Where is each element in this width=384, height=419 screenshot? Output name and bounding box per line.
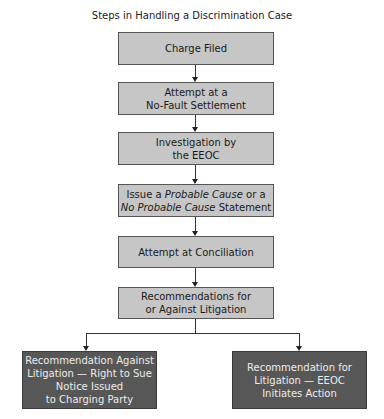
step-conciliation: Attempt at Conciliation bbox=[118, 236, 274, 268]
outcome-label: Initiates Action bbox=[247, 387, 352, 400]
step-charge-filed: Charge Filed bbox=[118, 32, 274, 65]
step-recommendations: Recommendations for or Against Litigatio… bbox=[118, 287, 274, 319]
outcome-label: Notice Issued bbox=[25, 380, 154, 393]
connector bbox=[195, 217, 196, 231]
step-label: No-Fault Settlement bbox=[146, 99, 246, 112]
outcome-against-litigation: Recommendation Against Litigation — Righ… bbox=[22, 351, 157, 409]
step-label: the EEOC bbox=[156, 149, 236, 162]
connector bbox=[195, 268, 196, 282]
outcome-for-litigation: Recommendation for Litigation — EEOC Ini… bbox=[232, 351, 367, 409]
connector bbox=[195, 165, 196, 179]
connector bbox=[195, 319, 196, 333]
connector-left bbox=[86, 333, 87, 346]
connector bbox=[195, 65, 196, 77]
outcome-label: Recommendation Against bbox=[25, 354, 154, 367]
step-label: Charge Filed bbox=[165, 43, 227, 54]
connector-right bbox=[299, 333, 300, 346]
outcome-label: to Charging Party bbox=[25, 393, 154, 406]
step-label: or Against Litigation bbox=[141, 303, 251, 316]
outcome-label: Litigation — Right to Sue bbox=[25, 367, 154, 380]
step-label: Investigation by bbox=[156, 136, 236, 149]
branch-line bbox=[86, 333, 300, 334]
connector bbox=[195, 115, 196, 127]
diagram-title: Steps in Handling a Discrimination Case bbox=[0, 10, 384, 21]
outcome-label: Recommendation for bbox=[247, 361, 352, 374]
step-probable-cause: Issue a Probable Cause or a No Probable … bbox=[118, 184, 274, 217]
step-no-fault-settlement: Attempt at a No-Fault Settlement bbox=[118, 82, 274, 115]
step-label-line1: Issue a Probable Cause or a bbox=[121, 188, 272, 201]
step-investigation: Investigation by the EEOC bbox=[118, 132, 274, 165]
step-label: Attempt at a bbox=[146, 86, 246, 99]
step-label-line2: No Probable Cause Statement bbox=[121, 201, 272, 214]
step-label: Attempt at Conciliation bbox=[138, 247, 254, 258]
step-label: Recommendations for bbox=[141, 290, 251, 303]
outcome-label: Litigation — EEOC bbox=[247, 374, 352, 387]
